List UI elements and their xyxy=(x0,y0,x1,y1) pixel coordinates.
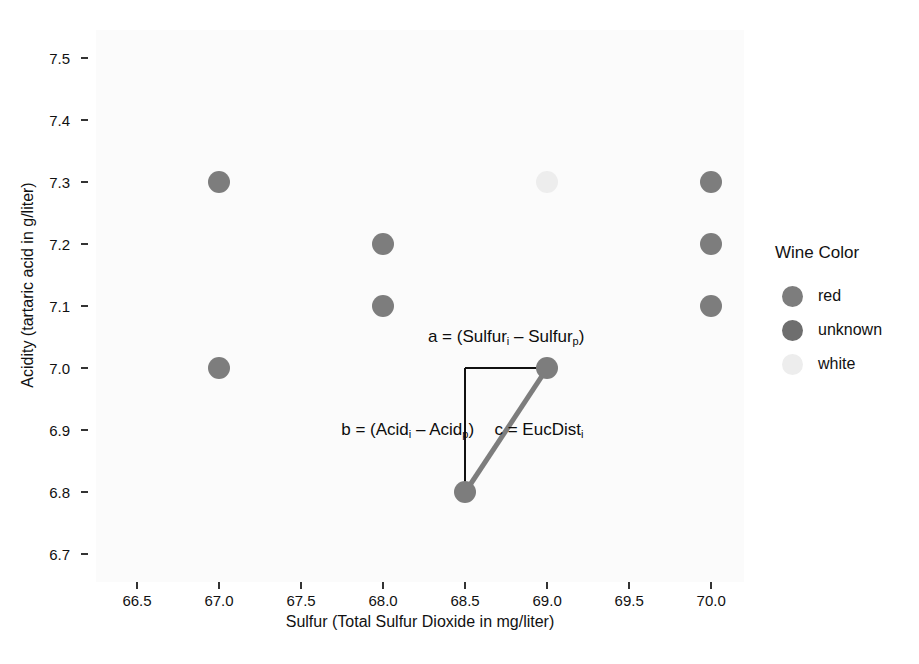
y-tick-mark xyxy=(81,305,88,307)
legend: Wine Color redunknownwhite xyxy=(775,243,915,381)
x-tick-mark xyxy=(546,582,548,589)
y-axis: 7.57.47.37.27.17.06.96.86.7 xyxy=(0,30,88,582)
data-point-red xyxy=(208,357,230,379)
a-segment xyxy=(465,367,547,369)
x-tick-label: 70.0 xyxy=(697,592,726,609)
annotation-a: a = (Sulfuri – Sulfurp) xyxy=(428,327,584,347)
y-tick-mark xyxy=(81,57,88,59)
x-tick-mark xyxy=(628,582,630,589)
x-tick-label: 67.5 xyxy=(286,592,315,609)
x-tick-label: 66.5 xyxy=(122,592,151,609)
y-tick-mark xyxy=(81,119,88,121)
x-tick-label: 69.0 xyxy=(533,592,562,609)
y-tick-label: 6.8 xyxy=(49,484,70,501)
data-point-white xyxy=(536,171,558,193)
annotation-b: b = (Acidi – Acidp) xyxy=(341,420,474,440)
y-tick-mark xyxy=(81,491,88,493)
legend-dot-icon xyxy=(782,354,803,375)
legend-dot-icon xyxy=(782,286,803,307)
x-tick-label: 68.5 xyxy=(451,592,480,609)
plot-panel: a = (Sulfuri – Sulfurp)b = (Acidi – Acid… xyxy=(96,30,744,582)
y-tick-label: 7.4 xyxy=(49,111,70,128)
legend-swatch-white xyxy=(775,347,809,381)
data-point-red xyxy=(454,481,476,503)
x-tick-label: 68.0 xyxy=(368,592,397,609)
y-tick-label: 7.2 xyxy=(49,235,70,252)
data-point-red xyxy=(536,357,558,379)
scatter-plot-figure: a = (Sulfuri – Sulfurp)b = (Acidi – Acid… xyxy=(0,0,919,664)
data-point-red xyxy=(372,233,394,255)
y-tick-mark xyxy=(81,181,88,183)
y-tick-label: 6.9 xyxy=(49,422,70,439)
x-tick-mark xyxy=(300,582,302,589)
x-tick-mark xyxy=(710,582,712,589)
legend-items: redunknownwhite xyxy=(775,279,915,381)
data-point-red xyxy=(208,171,230,193)
x-tick-mark xyxy=(464,582,466,589)
legend-title: Wine Color xyxy=(775,243,915,263)
x-tick-label: 69.5 xyxy=(615,592,644,609)
data-point-red xyxy=(700,171,722,193)
x-tick-mark xyxy=(382,582,384,589)
data-point-red xyxy=(700,295,722,317)
legend-swatch-unknown xyxy=(775,313,809,347)
y-tick-mark xyxy=(81,367,88,369)
annotation-c: c = EucDisti xyxy=(494,420,583,440)
x-tick-label: 67.0 xyxy=(204,592,233,609)
x-tick-mark xyxy=(218,582,220,589)
x-axis-title: Sulfur (Total Sulfur Dioxide in mg/liter… xyxy=(96,613,744,631)
y-tick-mark xyxy=(81,243,88,245)
y-tick-label: 7.1 xyxy=(49,298,70,315)
y-axis-title: Acidity (tartaric acid in g/liter) xyxy=(19,120,37,450)
legend-label: red xyxy=(818,287,841,305)
legend-dot-icon xyxy=(782,320,803,341)
legend-item-red[interactable]: red xyxy=(775,279,915,313)
y-tick-label: 7.5 xyxy=(49,49,70,66)
legend-label: white xyxy=(818,355,855,373)
y-tick-label: 6.7 xyxy=(49,546,70,563)
legend-item-unknown[interactable]: unknown xyxy=(775,313,915,347)
y-tick-label: 7.0 xyxy=(49,360,70,377)
y-tick-label: 7.3 xyxy=(49,173,70,190)
data-point-red xyxy=(700,233,722,255)
y-tick-mark xyxy=(81,553,88,555)
data-point-red xyxy=(372,295,394,317)
x-tick-mark xyxy=(136,582,138,589)
legend-label: unknown xyxy=(818,321,882,339)
legend-item-white[interactable]: white xyxy=(775,347,915,381)
legend-swatch-red xyxy=(775,279,809,313)
y-tick-mark xyxy=(81,429,88,431)
